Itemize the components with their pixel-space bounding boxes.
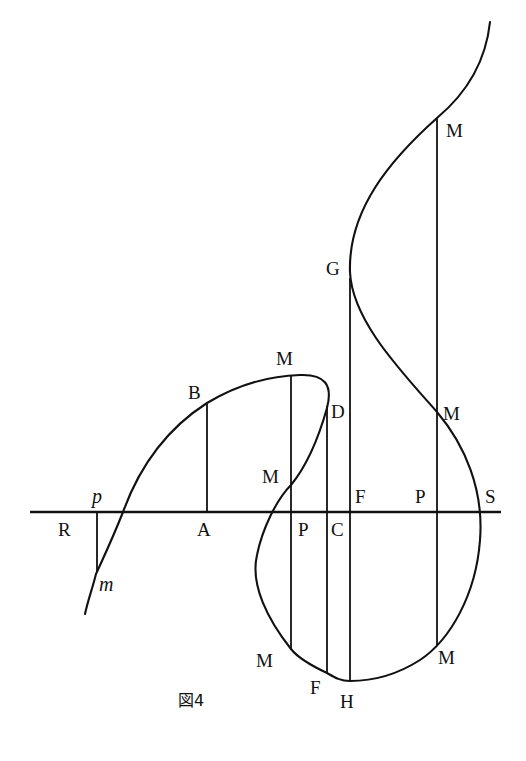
label-M-upper-left: M: [276, 348, 293, 369]
label-F-bottom: F: [310, 677, 321, 698]
label-P-right: P: [415, 486, 426, 507]
label-S: S: [485, 486, 496, 507]
label-A: A: [197, 519, 211, 540]
label-M-mid-left: M: [262, 466, 279, 487]
label-M-bottom-left: M: [256, 650, 273, 671]
curve-diagram: M G M B D M M p F P S R A P C m M M F H …: [0, 0, 526, 761]
label-B: B: [188, 382, 201, 403]
label-p: p: [90, 485, 102, 508]
label-F-axis: F: [355, 486, 366, 507]
label-R: R: [58, 519, 71, 540]
label-M-right-mid: M: [443, 403, 460, 424]
label-H: H: [340, 691, 354, 712]
label-G: G: [326, 258, 340, 279]
label-C: C: [331, 519, 344, 540]
label-M-bottom-right: M: [438, 647, 455, 668]
label-M-top: M: [446, 120, 463, 141]
label-P-left: P: [298, 519, 309, 540]
label-m: m: [99, 573, 113, 595]
figure-caption: 図4: [178, 691, 204, 710]
label-D: D: [331, 401, 345, 422]
